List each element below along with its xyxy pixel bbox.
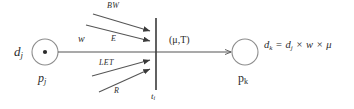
factor-label-bw: BW: [107, 2, 119, 10]
weight-edge-label: w: [78, 34, 85, 44]
formula-term-0: dj: [286, 39, 293, 50]
transfer-pair-label: (μ,T): [169, 35, 190, 45]
factor-label-e: E: [111, 35, 116, 43]
source-node-value-label: dj: [14, 45, 23, 60]
factor-arrow-e: [86, 25, 150, 41]
formula-term-2: μ: [326, 39, 331, 50]
source-node-name-label: pj: [38, 72, 46, 86]
source-node-pj: [32, 39, 58, 65]
source-node-dot: [43, 50, 47, 54]
factor-label-r: R: [114, 87, 119, 95]
target-node-name-label: pk: [238, 72, 248, 86]
target-node-pk: [232, 39, 258, 65]
formula-equals: =: [275, 39, 283, 50]
output-formula-label: dk = dj × w × μ: [264, 40, 331, 52]
formula-operator-0: ×: [295, 39, 303, 50]
formula-term-1: w: [306, 39, 313, 50]
diagram-graphics: [0, 0, 354, 109]
diagram-canvas: dj pj w BW E LET R (μ,T) ti pk dk = dj ×…: [0, 0, 354, 109]
factor-label-let: LET: [99, 59, 114, 67]
formula-operator-1: ×: [316, 39, 324, 50]
transfer-bar-label: ti: [151, 92, 155, 101]
